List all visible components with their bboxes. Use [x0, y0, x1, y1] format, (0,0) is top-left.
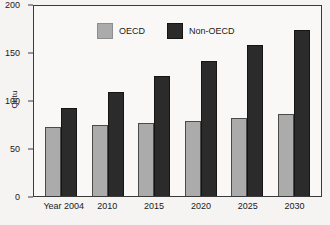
x-ticklabel-2015: 2015 [137, 200, 171, 216]
bar-non-oecd-2015 [154, 76, 170, 196]
y-ticklabel-200: 200 [5, 1, 20, 10]
bar-non-oecd-2010 [108, 92, 124, 196]
dark-swatch-icon [167, 23, 183, 39]
bar-non-oecd-2030 [294, 30, 310, 196]
bar-group-2025 [231, 6, 263, 196]
y-ticklabel-0: 0 [15, 193, 20, 202]
y-axis-ticklabels: 200 150 100 50 0 [0, 0, 27, 225]
y-ticklabel-100: 100 [5, 97, 20, 106]
plot-area: OECD Non-OECD [33, 5, 322, 197]
legend: OECD Non-OECD [97, 23, 235, 39]
x-ticklabel-2004: Year 2004 [43, 200, 77, 216]
bar-non-oecd-2020 [201, 61, 217, 196]
bar-non-oecd-2004 [61, 108, 77, 196]
bar-oecd-2020 [185, 121, 201, 196]
x-ticklabel-2020: 2020 [184, 200, 218, 216]
bar-oecd-2004 [45, 127, 61, 196]
y-ticklabel-50: 50 [10, 145, 20, 154]
bar-oecd-2015 [138, 123, 154, 196]
bar-oecd-2030 [278, 114, 294, 196]
y-ticklabel-150: 150 [5, 49, 20, 58]
gray-swatch-icon [97, 23, 113, 39]
bar-group-2030 [278, 6, 310, 196]
bar-oecd-2025 [231, 118, 247, 196]
x-axis-ticklabels: Year 2004 2010 2015 2020 2025 2030 [33, 200, 322, 216]
bar-group-2004 [45, 6, 77, 196]
bar-chart: Qbtu 200 150 100 50 0 [0, 0, 330, 225]
legend-item-non-oecd: Non-OECD [167, 23, 235, 39]
x-ticklabel-2030: 2030 [278, 200, 312, 216]
x-ticklabel-2025: 2025 [231, 200, 265, 216]
bar-non-oecd-2025 [247, 45, 263, 196]
legend-item-oecd: OECD [97, 23, 145, 39]
bar-oecd-2010 [92, 125, 108, 196]
x-ticklabel-2010: 2010 [90, 200, 124, 216]
legend-label-oecd: OECD [119, 26, 145, 36]
legend-label-non-oecd: Non-OECD [189, 26, 235, 36]
